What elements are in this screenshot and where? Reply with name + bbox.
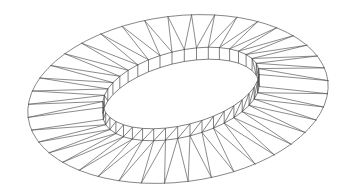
radial-truss-members [28, 15, 328, 183]
truss-diagonal [49, 130, 110, 153]
truss-diagonal [208, 15, 214, 47]
ring-roof-wireframe-diagram [0, 0, 355, 194]
truss-member [219, 22, 258, 48]
inner-ring-top-edge [113, 76, 120, 82]
inner-ring-brace [104, 95, 107, 101]
truss-diagonal [214, 128, 256, 164]
inner-ring-bottom-edge [132, 139, 142, 140]
truss-member [256, 63, 324, 68]
truss-member [101, 34, 138, 65]
truss-diagonal [239, 28, 277, 52]
truss-member [234, 118, 274, 155]
inner-ring-brace [106, 118, 110, 125]
inner-ring-bottom-edge [160, 64, 172, 68]
truss-diagonal [82, 43, 138, 65]
inner-ring-bottom-edge [246, 67, 252, 71]
inner-ring-brace [190, 120, 202, 135]
outer-ellipse-outline [18, 0, 338, 194]
truss-member [141, 140, 165, 183]
truss-member [145, 21, 160, 56]
inner-ring-wall [103, 47, 259, 141]
inner-ring-brace [110, 122, 116, 130]
truss-diagonal [249, 105, 316, 120]
inner-ring-bottom-edge [190, 132, 202, 136]
inner-ring-bottom-edge [104, 101, 107, 107]
truss-diagonal [40, 78, 113, 83]
inner-ring-top-edge [219, 48, 229, 49]
inner-ring-bottom-edge [128, 77, 138, 83]
truss-member [32, 91, 104, 95]
inner-ring-top-edge [110, 118, 116, 122]
truss-diagonal [165, 140, 166, 183]
truss-diagonal [119, 140, 143, 180]
inner-ring-brace [116, 125, 124, 134]
truss-member [39, 130, 110, 143]
inner-ring-bottom-edge [120, 82, 128, 88]
truss-diagonal [32, 89, 108, 91]
truss-diagonal [242, 112, 305, 133]
inner-ring-bottom-edge [110, 130, 116, 134]
inner-ring-top-edge [172, 50, 184, 53]
outer-ellipse-edge [18, 0, 338, 194]
truss-member [65, 54, 120, 77]
inner-ring-brace [132, 128, 142, 139]
inner-ring-top-edge [166, 127, 178, 129]
inner-ring-top-edge [190, 120, 202, 124]
inner-ring-bottom-edge [197, 59, 209, 60]
inner-ring-top-edge [104, 89, 107, 95]
truss-member [230, 28, 277, 49]
truss-diagonal [65, 54, 128, 71]
inner-ring-bottom-edge [108, 95, 113, 101]
truss-member [254, 99, 316, 120]
inner-ring-top-edge [124, 125, 133, 127]
truss-diagonal [101, 34, 149, 60]
truss-member [224, 123, 255, 164]
inner-ring-bottom-edge [124, 137, 133, 139]
inner-ring-top-edge [197, 47, 209, 48]
truss-member [82, 43, 128, 70]
truss-diagonal [254, 99, 324, 107]
inner-ring-top-edge [160, 52, 172, 56]
truss-diagonal [178, 139, 188, 182]
inner-ring-bottom-edge [166, 139, 178, 141]
truss-member [188, 136, 190, 182]
truss-diagonal [192, 15, 197, 48]
inner-ring-brace [166, 127, 178, 141]
inner-ring-top-edge [230, 49, 239, 51]
truss-diagonal [63, 134, 116, 163]
truss-member [40, 78, 108, 89]
inner-ring-bottom-edge [172, 62, 184, 65]
truss-diagonal [141, 141, 153, 183]
truss-diagonal [190, 136, 211, 178]
truss-member [184, 15, 191, 50]
inner-ring-bottom-edge [184, 60, 196, 62]
inner-ring-top-edge [128, 65, 138, 71]
inner-ring-top-edge [138, 60, 149, 65]
inner-ring-bottom-edge [239, 63, 247, 66]
truss-member [202, 132, 211, 177]
inner-ring-top-edge [116, 122, 124, 125]
inner-ring-top-edge [154, 128, 166, 129]
inner-ring-brace [124, 127, 133, 137]
truss-member [119, 141, 154, 181]
inner-ring-brace [143, 129, 154, 141]
inner-ring-bottom-edge [113, 88, 120, 94]
inner-ring-top-edge [106, 113, 110, 118]
inner-ring-top-edge [246, 55, 252, 59]
truss-diagonal [259, 68, 325, 69]
inner-ring-top-edge [239, 51, 247, 54]
inner-ring-top-edge [132, 127, 142, 128]
inner-ring-bottom-edge [149, 68, 161, 72]
inner-ring-top-edge [184, 48, 196, 50]
truss-diagonal [32, 119, 104, 130]
inner-ring-bottom-edge [230, 61, 239, 63]
inner-ring-bottom-edge [116, 134, 124, 137]
inner-ring-top-edge [108, 83, 113, 89]
truss-member [259, 69, 328, 81]
inner-ring-bottom-edge [106, 125, 110, 130]
inner-ring-brace [154, 128, 166, 141]
wireframe-canvas [0, 0, 355, 194]
truss-member [165, 139, 178, 184]
inner-ring-bottom-edge [138, 72, 149, 77]
truss-member [258, 93, 324, 107]
